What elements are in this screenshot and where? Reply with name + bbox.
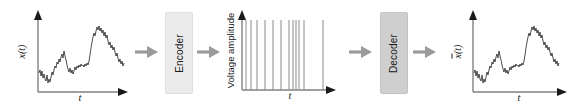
signal-trace bbox=[39, 26, 124, 83]
spike-bars bbox=[246, 20, 323, 90]
output-plot-y-label-suffix: (t) bbox=[452, 45, 463, 54]
reconstructed-signal-plot: x(t) t bbox=[445, 0, 579, 105]
input-plot-y-label: x(t) bbox=[16, 27, 27, 77]
pipeline-diagram: x(t) t Encoder bbox=[0, 0, 579, 105]
encoder-block-label: Encoder bbox=[174, 34, 185, 73]
spike-plot-x-label: t bbox=[278, 90, 302, 101]
y-axis bbox=[238, 10, 246, 90]
input-plot-x-label: t bbox=[68, 92, 92, 103]
reconstructed-signal-svg bbox=[445, 0, 579, 105]
y-axis bbox=[34, 10, 42, 92]
decoder-block-label: Decoder bbox=[389, 33, 400, 72]
reconstructed-trace bbox=[474, 26, 559, 83]
input-plot-y-label-text: x(t) bbox=[16, 45, 27, 59]
encoder-block[interactable]: Encoder bbox=[165, 12, 193, 94]
arrow-spikes-to-decoder bbox=[348, 44, 374, 60]
decoder-block[interactable]: Decoder bbox=[380, 12, 408, 94]
output-plot-x-label: t bbox=[507, 92, 531, 103]
input-signal-plot: x(t) t bbox=[0, 0, 135, 105]
arrow-encoder-to-spikes bbox=[196, 44, 222, 60]
spike-plot-y-label: Voltage amplitude bbox=[225, 10, 236, 92]
y-axis bbox=[469, 10, 477, 92]
output-plot-y-label: x(t) bbox=[452, 27, 463, 77]
arrow-decoder-to-output bbox=[412, 44, 438, 60]
spike-train-plot: Voltage amplitude t bbox=[220, 0, 345, 105]
arrow-signal-to-encoder bbox=[134, 44, 160, 60]
output-plot-y-label-base: x bbox=[452, 54, 463, 58]
